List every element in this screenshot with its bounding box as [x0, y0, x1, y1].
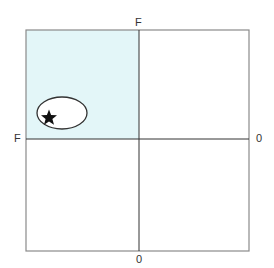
label-top: F: [135, 17, 142, 28]
quadrant-diagram: [0, 0, 274, 268]
label-bottom: 0: [136, 254, 142, 265]
label-right: 0: [256, 133, 262, 144]
label-left: F: [14, 133, 21, 144]
